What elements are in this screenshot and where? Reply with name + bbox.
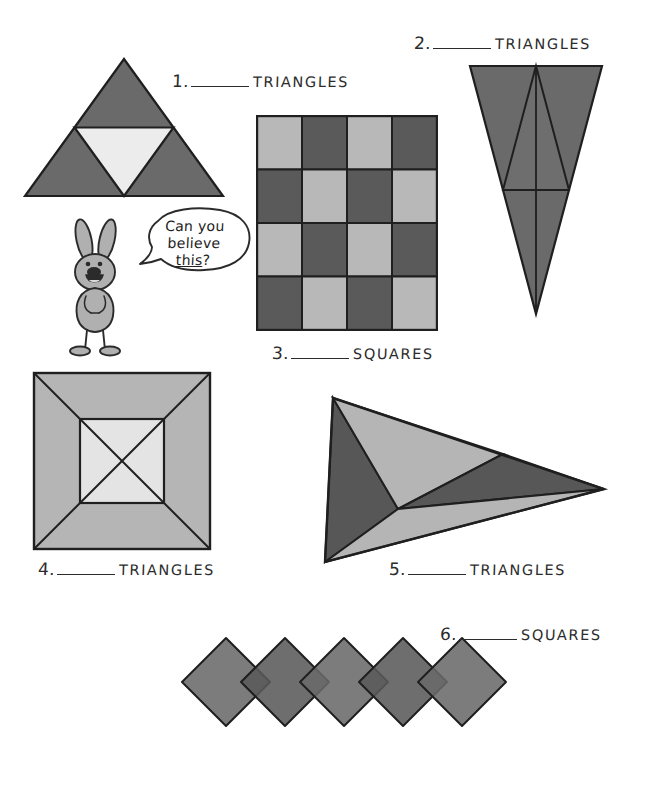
checker-cell: [302, 116, 347, 170]
label-problem-5: 5. TRIANGLES: [389, 559, 566, 579]
rabbit-eye-left: [86, 262, 91, 267]
speech-line-1: Can you: [146, 218, 243, 235]
label-3-blank[interactable]: [291, 345, 349, 359]
label-5-number: 5.: [388, 559, 406, 579]
speech-line-3: this?: [145, 252, 242, 269]
checker-cell: [347, 277, 392, 331]
label-6-blank[interactable]: [459, 626, 517, 640]
checker-cell: [302, 277, 347, 331]
checker-cell: [392, 223, 437, 277]
checker-cell: [392, 277, 437, 331]
rabbit-body: [77, 288, 114, 332]
checker-cell: [257, 170, 302, 224]
label-4-number: 4.: [37, 559, 55, 579]
label-5-blank[interactable]: [408, 561, 466, 575]
speech-line-3-tail: ?: [202, 252, 211, 268]
checker-cell: [302, 170, 347, 224]
checker-cell: [392, 116, 437, 170]
label-4-blank[interactable]: [57, 561, 115, 575]
label-4-word: TRIANGLES: [119, 562, 216, 578]
label-problem-6: 6. SQUARES: [440, 624, 602, 644]
label-2-blank[interactable]: [433, 35, 491, 49]
checker-cell: [302, 223, 347, 277]
checker-cell: [347, 116, 392, 170]
checker-cell: [257, 223, 302, 277]
figure-checkerboard: [256, 115, 438, 331]
speech-bubble-text: Can you believe this?: [145, 218, 244, 269]
label-6-word: SQUARES: [521, 627, 602, 643]
checker-cell: [347, 170, 392, 224]
diamond-chain-cells: [182, 638, 506, 726]
speech-line-2: believe: [146, 235, 243, 252]
checker-cell: [347, 223, 392, 277]
rabbit-eye-right: [98, 262, 103, 267]
label-problem-4: 4. TRIANGLES: [38, 559, 215, 579]
figure-diamond-chain: [178, 617, 478, 747]
figure-nested-square: [31, 370, 213, 552]
diamond-square: [418, 638, 506, 726]
label-1-blank[interactable]: [191, 73, 249, 87]
label-problem-3: 3. SQUARES: [272, 343, 434, 363]
label-3-number: 3.: [271, 343, 289, 363]
rabbit-foot-right: [100, 347, 120, 356]
label-6-number: 6.: [439, 624, 457, 644]
figure-narrow-inverted-triangle: [466, 62, 606, 318]
label-2-number: 2.: [413, 33, 431, 53]
checker-cell: [392, 170, 437, 224]
figure-dart-triangle: [305, 392, 615, 567]
speech-line-3-underlined: this: [175, 252, 203, 268]
rabbit-foot-left: [70, 347, 90, 356]
checker-cell: [257, 116, 302, 170]
label-5-word: TRIANGLES: [470, 562, 567, 578]
checkerboard-cells: [257, 116, 437, 330]
label-1-word: TRIANGLES: [253, 74, 350, 90]
checker-cell: [257, 277, 302, 331]
label-2-word: TRIANGLES: [495, 36, 592, 52]
label-1-number: 1.: [171, 71, 189, 91]
label-problem-2: 2. TRIANGLES: [414, 33, 591, 53]
label-3-word: SQUARES: [353, 346, 434, 362]
label-problem-1: 1. TRIANGLES: [172, 71, 349, 91]
worksheet-page: 1. TRIANGLES 2. TRIANGLES 3. SQUAR: [0, 0, 645, 789]
